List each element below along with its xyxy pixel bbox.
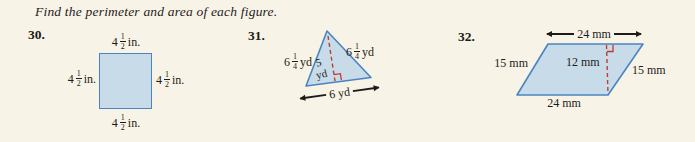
- triangle-left-side-label: 6 14 yd: [278, 52, 312, 71]
- unit: in.: [128, 36, 140, 48]
- square-left-label: 4 12 in.: [56, 69, 96, 88]
- parallelogram-shape: [517, 44, 643, 95]
- triangle-base-label: 6 yd: [328, 86, 350, 101]
- textbook-exercise-page: Find the perimeter and area of each figu…: [0, 0, 695, 142]
- whole-number: 4: [112, 117, 118, 129]
- square-bottom-label: 4 12 in.: [96, 113, 156, 132]
- unit: yd: [362, 46, 374, 58]
- parallelogram-bottom-label: 24 mm: [546, 97, 582, 109]
- right-arrow-icon: [614, 33, 641, 34]
- exercise-instructions: Find the perimeter and area of each figu…: [35, 4, 277, 20]
- triangle-right-side-label: 6 14 yd: [346, 42, 374, 61]
- fraction: 14: [292, 52, 298, 71]
- whole-number: 4: [112, 36, 118, 48]
- fraction: 12: [120, 32, 126, 51]
- left-arrow-icon: [300, 94, 326, 99]
- parallelogram-top-label: 24 mm: [577, 28, 611, 40]
- unit: in.: [84, 73, 96, 85]
- unit: in.: [172, 74, 184, 86]
- problem-number-31: 31.: [248, 28, 265, 44]
- parallelogram-left-label: 15 mm: [494, 57, 528, 69]
- square-top-label: 4 12 in.: [96, 32, 156, 51]
- parallelogram-top-dimension: 24 mm: [547, 28, 641, 40]
- fraction: 12: [120, 113, 126, 132]
- whole-number: 4: [68, 73, 74, 85]
- left-arrow-icon: [547, 33, 574, 34]
- whole-number: 6: [284, 56, 290, 68]
- parallelogram-right-label: 15 mm: [632, 64, 666, 76]
- problem-number-32: 32.: [458, 29, 475, 45]
- right-arrow-icon: [353, 87, 379, 92]
- square-figure: [99, 53, 152, 109]
- fraction: 12: [76, 69, 82, 88]
- square-right-label: 4 12 in.: [156, 70, 184, 89]
- whole-number: 6: [346, 46, 352, 58]
- problem-number-30: 30.: [28, 27, 45, 43]
- whole-number: 4: [156, 74, 162, 86]
- unit: in.: [128, 117, 140, 129]
- parallelogram-height-label: 12 mm: [566, 56, 600, 68]
- fraction: 12: [164, 70, 170, 89]
- fraction: 14: [354, 42, 360, 61]
